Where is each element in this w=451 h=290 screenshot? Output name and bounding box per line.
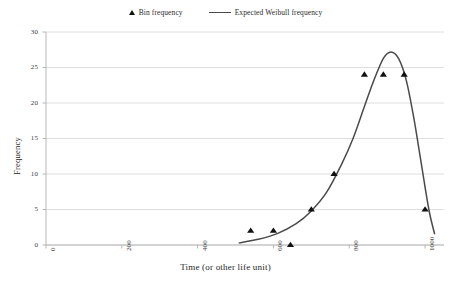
- x-tick-label: 800: [352, 240, 360, 251]
- x-axis-title: Time (or other life unit): [0, 262, 451, 272]
- bin-frequency-markers: [247, 71, 429, 247]
- bin-frequency-marker: [270, 227, 277, 232]
- bin-frequency-marker: [361, 71, 368, 76]
- y-tick-label: 30: [16, 28, 38, 36]
- x-tick-marks: [46, 245, 425, 249]
- weibull-frequency-chart: Bin frequency Expected Weibull frequency…: [0, 0, 451, 290]
- y-tick-label: 20: [16, 99, 38, 107]
- y-tick-label: 10: [16, 170, 38, 178]
- y-tick-marks: [43, 32, 47, 245]
- bin-frequency-marker: [421, 206, 428, 211]
- bin-frequency-marker: [401, 71, 408, 76]
- x-tick-label: 1000: [428, 237, 436, 251]
- bin-frequency-marker: [247, 227, 254, 232]
- gridlines: [46, 32, 444, 245]
- plot-area: [0, 0, 451, 290]
- x-tick-label: 200: [125, 240, 133, 251]
- y-tick-label: 15: [16, 134, 38, 142]
- expected-weibull-frequency-curve: [239, 52, 434, 243]
- x-tick-label: 0: [49, 247, 57, 251]
- y-tick-label: 25: [16, 63, 38, 71]
- y-tick-label: 5: [16, 205, 38, 213]
- bin-frequency-marker: [380, 71, 387, 76]
- x-tick-label: 600: [276, 240, 284, 251]
- y-tick-label: 0: [16, 241, 38, 249]
- bin-frequency-marker: [287, 242, 294, 247]
- x-tick-label: 400: [201, 240, 209, 251]
